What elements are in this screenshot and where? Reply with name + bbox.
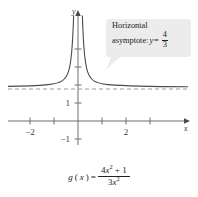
callout-fraction-four-thirds: 4 3 [162,31,168,50]
callout-line-2: asymptote: y = 4 3 [112,32,190,51]
asymptote-callout-text: Horizontal asymptote: y = 4 3 [112,21,190,50]
equation-close-paren: ) [86,172,89,182]
equation-open-paren: ( [75,172,78,182]
callout-line-1: Horizontal [112,21,190,32]
equation-function-name: g [68,172,73,182]
callout-leader-line [106,55,122,70]
curve-left-branch [8,16,74,87]
callout-asymptote-word: asymptote: [112,36,148,47]
callout-variable-y: y [149,36,153,47]
y-tick-label-neg1: −1 [60,134,70,144]
equation-fraction: 4x2 + 1 3x2 [98,166,130,187]
equation-denominator: 3x2 [105,177,123,187]
callout-equals: = [154,36,159,47]
callout-fraction-numerator: 4 [162,31,168,39]
x-tick-label-2: 2 [124,127,129,137]
y-axis [75,10,82,145]
callout-fraction-denominator: 3 [162,41,168,49]
graph-figure: y x −2 2 1 −1 Horizontal asymptote: y = … [0,0,198,197]
equation-equals: = [91,172,96,182]
equation-wrapper: g(x) = 4x2 + 1 3x2 [68,166,129,187]
x-tick-label-neg2: −2 [25,127,35,137]
x-axis [8,118,190,125]
function-equation: g(x) = 4x2 + 1 3x2 [0,166,198,187]
equation-numerator: 4x2 + 1 [98,166,130,176]
y-axis-label: y [71,7,76,16]
x-axis-label: x [183,124,188,133]
equation-argument: x [80,172,84,182]
y-tick-label-1: 1 [66,98,71,108]
